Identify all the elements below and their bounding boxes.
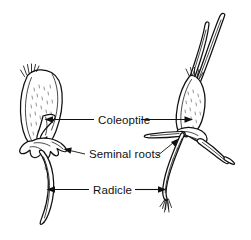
- label-coleoptile: Coleoptile: [98, 114, 150, 126]
- right-seminal-root-right: [197, 139, 228, 164]
- label-radicle: Radicle: [93, 184, 132, 196]
- diagram-canvas: Coleoptile Seminal roots Radicle: [0, 0, 251, 240]
- left-radicle: [39, 150, 53, 224]
- right-seminal-root-right-line: [203, 143, 225, 160]
- right-seedling: [144, 13, 234, 212]
- radicle-leader-left: [47, 186, 90, 193]
- label-seminal-roots: Seminal roots: [89, 148, 161, 160]
- coleoptile-leader-left: [45, 116, 95, 123]
- left-seedling: [20, 64, 67, 224]
- radicle-leader-right: [135, 186, 167, 193]
- botany-diagram-figure: Coleoptile Seminal roots Radicle: [0, 0, 251, 240]
- seminal-roots-leader-left: [64, 148, 86, 154]
